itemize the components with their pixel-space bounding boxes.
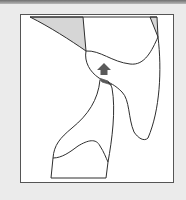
diagram <box>0 0 186 200</box>
diagram-frame <box>21 15 174 183</box>
